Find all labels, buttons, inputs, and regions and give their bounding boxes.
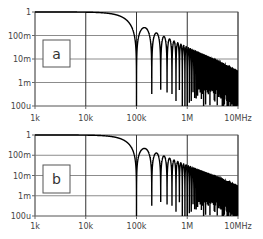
y-tick-label: 10m — [13, 55, 31, 64]
y-tick-label: 1m — [18, 79, 31, 88]
x-tick-label: 10k — [78, 222, 93, 231]
x-tick-label: 10MHz — [224, 114, 251, 123]
y-tick-label: 100u — [11, 212, 31, 221]
chart-figure: 1100m10m1m100u1k10k100k1M10MHza 1100m10m… — [0, 0, 263, 239]
x-tick-label: 100k — [127, 222, 147, 231]
chart-panel-b: 1100m10m1m100u1k10k100k1M10MHzb — [8, 131, 252, 231]
x-tick-label: 10MHz — [224, 222, 251, 231]
chart-panel-a: 1100m10m1m100u1k10k100k1M10MHza — [8, 8, 252, 123]
x-tick-label: 1M — [181, 222, 193, 231]
y-tick-label: 10m — [13, 172, 31, 181]
x-tick-label: 1M — [181, 114, 193, 123]
y-tick-label: 100m — [8, 32, 31, 41]
y-tick-label: 1 — [26, 8, 31, 17]
x-tick-label: 1k — [30, 114, 40, 123]
y-tick-label: 1 — [26, 131, 31, 140]
panel-label: b — [52, 171, 61, 187]
x-tick-label: 100k — [127, 114, 147, 123]
panel-label: a — [52, 46, 61, 62]
y-tick-label: 1m — [18, 192, 31, 201]
x-tick-label: 10k — [78, 114, 93, 123]
y-tick-label: 100u — [11, 102, 31, 111]
y-tick-label: 100m — [8, 151, 31, 160]
x-tick-label: 1k — [30, 222, 40, 231]
